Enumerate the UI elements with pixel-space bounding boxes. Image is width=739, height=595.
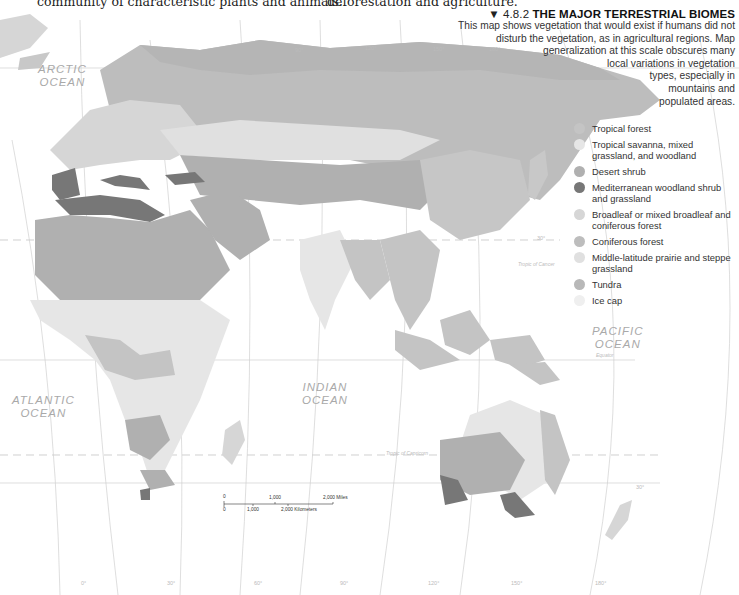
legend-item-broadleaf: Broadleaf or mixed broadleaf and conifer… <box>574 209 734 231</box>
longitude-label: 0° <box>81 580 86 586</box>
mediterranean <box>52 168 80 200</box>
legend-item-coniferous: Coniferous forest <box>574 236 734 247</box>
scale-km-mid: 1,000 <box>247 507 259 512</box>
figure-number: 4.8.2 <box>503 8 529 20</box>
description-line: types, especially in <box>458 70 735 83</box>
scale-miles-zero: 0 <box>223 494 226 499</box>
description-line: This map shows vegetation that would exi… <box>458 20 735 33</box>
legend: Tropical forest Tropical savanna, mixed … <box>574 123 734 311</box>
africa-savanna <box>30 300 230 480</box>
longitude-label-top: 150° <box>433 46 444 52</box>
ocean-label-pacific: PACIFICOCEAN <box>592 325 644 351</box>
equator-label: Equator <box>596 352 614 358</box>
swatch-icon <box>574 139 585 150</box>
body-text-left: community of characteristic plants and a… <box>37 0 343 9</box>
longitude-label: 30° <box>167 580 175 586</box>
longitude-label: 150° <box>511 580 522 586</box>
triangle-marker-icon: ▼ <box>488 8 499 20</box>
longitude-label: 120° <box>428 580 439 586</box>
legend-label: Coniferous forest <box>592 236 663 247</box>
scale-km-end: 2,000 Kilometers <box>281 507 317 512</box>
longitude-label-top: 90° <box>295 47 303 53</box>
scale-bar: 0 1,000 2,000 Miles 0 1,000 2,000 Kilome… <box>223 493 343 523</box>
madagascar <box>222 420 245 465</box>
legend-item-tropical-forest: Tropical forest <box>574 123 734 134</box>
new-guinea <box>510 362 560 385</box>
figure-name: THE MAJOR TERRESTRIAL BIOMES <box>532 8 735 20</box>
longitude-label: 90° <box>340 580 348 586</box>
latitude-label: 30° <box>636 484 644 490</box>
legend-item-mediterranean: Mediterranean woodland shrub and grassla… <box>574 182 734 204</box>
swatch-icon <box>574 182 585 193</box>
swatch-icon <box>574 236 585 247</box>
tropic-of-cancer-label: Tropic of Cancer <box>518 261 555 267</box>
swatch-icon <box>574 123 585 134</box>
longitude-label-top: 120° <box>365 45 376 51</box>
new-zealand <box>605 500 632 540</box>
latitude-label: 30° <box>537 235 545 241</box>
swatch-icon <box>574 252 585 263</box>
legend-label: Tropical forest <box>592 123 651 134</box>
scale-miles-mid: 1,000 <box>269 495 281 500</box>
legend-item-tropical-savanna: Tropical savanna, mixed grassland, and w… <box>574 139 734 161</box>
description-line: populated areas. <box>458 96 735 109</box>
scale-km-zero: 0 <box>223 507 226 512</box>
ocean-label-arctic: ARCTICOCEAN <box>38 63 87 89</box>
ocean-label-atlantic: ATLANTICOCEAN <box>12 394 75 420</box>
legend-item-tundra: Tundra <box>574 279 734 290</box>
swatch-icon <box>574 209 585 220</box>
ocean-label-indian: INDIANOCEAN <box>302 381 348 407</box>
legend-label: Middle-latitude prairie and steppe grass… <box>592 252 731 274</box>
legend-label: Tropical savanna, mixed grassland, and w… <box>592 139 696 161</box>
legend-item-ice-cap: Ice cap <box>574 295 734 306</box>
description-line: mountains and <box>458 83 735 96</box>
longitude-label: 60° <box>254 580 262 586</box>
figure-description: This map shows vegetation that would exi… <box>458 20 735 108</box>
legend-item-desert-shrub: Desert shrub <box>574 166 734 177</box>
tropic-of-capricorn-label: Tropic of Capricorn <box>386 450 428 456</box>
longitude-label-top: 180° <box>489 46 500 52</box>
legend-label: Broadleaf or mixed broadleaf and conifer… <box>592 209 731 231</box>
legend-label: Ice cap <box>592 295 622 306</box>
legend-label: Tundra <box>592 279 621 290</box>
longitude-label: 180° <box>595 580 606 586</box>
legend-label: Desert shrub <box>592 166 646 177</box>
swatch-icon <box>574 295 585 306</box>
swatch-icon <box>574 279 585 290</box>
swatch-icon <box>574 166 585 177</box>
legend-item-prairie: Middle-latitude prairie and steppe grass… <box>574 252 734 274</box>
sahara-desert <box>35 210 230 300</box>
scale-miles-end: 2,000 Miles <box>323 495 348 500</box>
china-broadleaf <box>420 150 530 240</box>
legend-label: Mediterranean woodland shrub and grassla… <box>592 182 721 204</box>
description-line: disturb the vegetation, as in agricultur… <box>458 33 735 46</box>
greenland <box>0 14 48 58</box>
description-line: local variations in vegetation <box>458 58 735 71</box>
